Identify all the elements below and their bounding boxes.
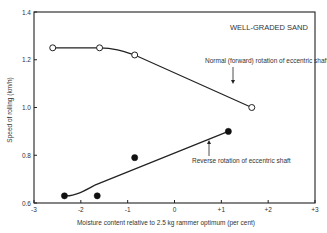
filled-circle-marker bbox=[132, 155, 138, 161]
open-circle-marker bbox=[97, 45, 103, 51]
y-tick-label: 1.4 bbox=[22, 9, 31, 16]
plot-frame bbox=[34, 12, 315, 203]
filled-circle-marker bbox=[61, 193, 67, 199]
x-tick-label: -3 bbox=[31, 206, 37, 213]
y-axis: 0.60.81.01.21.4 bbox=[22, 9, 37, 207]
x-tick-label: +1 bbox=[218, 206, 226, 213]
annotation-reverse-text: Reverse rotation of eccentric shaft bbox=[192, 157, 291, 164]
chart: 0.60.81.01.21.4 -3-2-10+1+2+3 WELL-GRADE… bbox=[0, 0, 327, 233]
arrow-icon bbox=[207, 140, 211, 156]
arrow-icon bbox=[231, 67, 235, 84]
x-tick-label: +3 bbox=[311, 206, 319, 213]
y-axis-label: Speed of rolling (km/h) bbox=[6, 77, 14, 142]
open-circle-marker bbox=[50, 45, 56, 51]
annotation-reverse: Reverse rotation of eccentric shaft bbox=[192, 140, 291, 164]
series-curves bbox=[53, 48, 252, 196]
annotation-normal-text: Normal (forward) rotation of eccentric s… bbox=[205, 57, 327, 65]
chart-title: WELL-GRADED SAND bbox=[230, 23, 309, 32]
plot-border bbox=[34, 12, 315, 203]
x-axis-label: Moisture content relative to 2.5 kg ramm… bbox=[77, 219, 255, 227]
x-tick-label: +2 bbox=[264, 206, 272, 213]
filled-circle-marker bbox=[94, 193, 100, 199]
open-circle-marker bbox=[132, 52, 138, 58]
y-tick-label: 1.0 bbox=[22, 104, 31, 111]
y-tick-label: 1.2 bbox=[22, 56, 31, 63]
open-circle-marker bbox=[249, 105, 255, 111]
series-points bbox=[50, 45, 255, 199]
annotation-normal: Normal (forward) rotation of eccentric s… bbox=[205, 57, 327, 84]
x-tick-label: 0 bbox=[173, 206, 177, 213]
filled-circle-marker bbox=[225, 128, 231, 134]
x-tick-label: -2 bbox=[78, 206, 84, 213]
y-tick-label: 0.6 bbox=[22, 200, 31, 207]
x-axis: -3-2-10+1+2+3 bbox=[31, 200, 319, 213]
x-tick-label: -1 bbox=[125, 206, 131, 213]
y-tick-label: 0.8 bbox=[22, 152, 31, 159]
